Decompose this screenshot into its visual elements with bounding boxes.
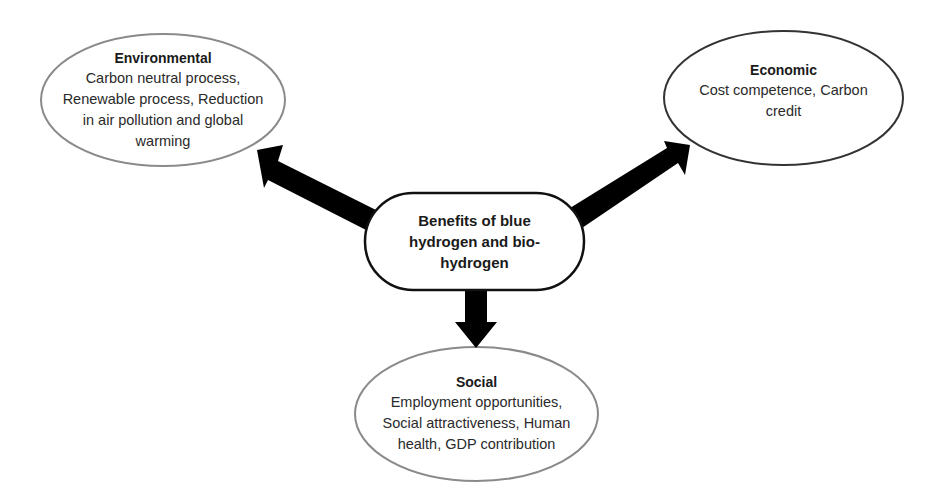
center-line-2: hydrogen and bio- [409,231,540,252]
center-line-1: Benefits of blue [418,210,531,231]
environmental-line-2: Renewable process, Reduction [63,89,264,110]
environmental-line-1: Carbon neutral process, [86,68,241,89]
environmental-line-3: in air pollution and global [83,110,243,131]
environmental-line-4: warming [136,131,191,152]
center-node: Benefits of blue hydrogen and bio- hydro… [365,193,584,290]
environmental-title: Environmental [114,49,211,68]
environmental-node: Environmental Carbon neutral process, Re… [41,34,285,166]
social-line-1: Employment opportunities, [391,392,563,413]
social-line-3: health, GDP contribution [398,434,556,455]
economic-node: Economic Cost competence, Carbon credit [664,31,903,151]
center-line-3: hydrogen [440,252,508,273]
arrow-to-economic-icon [570,141,690,228]
economic-line-1: Cost competence, Carbon [699,80,867,101]
social-title: Social [456,373,497,392]
economic-line-2: credit [766,101,801,122]
arrow-to-social-icon [455,285,497,348]
economic-title: Economic [750,61,817,80]
social-line-2: Social attractiveness, Human [383,413,571,434]
social-node: Social Employment opportunities, Social … [355,352,598,476]
